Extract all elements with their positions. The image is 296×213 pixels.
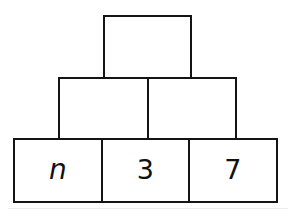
pyramid-block-bottom-left[interactable]: n [13,138,103,203]
pyramid-block-bottom-right[interactable]: 7 [188,138,278,203]
pyramid-block-bottom-middle-label: 3 [137,156,155,183]
pyramid-block-bottom-right-label: 7 [224,156,242,183]
pyramid-block-top[interactable] [103,15,192,79]
pyramid-block-middle-right[interactable] [147,77,237,140]
pyramid-block-bottom-middle[interactable]: 3 [101,138,190,203]
pyramid-block-bottom-left-label: n [49,156,67,184]
pyramid-stage: n 3 7 [0,0,296,213]
pyramid-block-middle-left[interactable] [58,77,149,140]
scan-artifact-line [8,208,288,209]
block-pyramid-figure: n 3 7 [0,0,296,213]
